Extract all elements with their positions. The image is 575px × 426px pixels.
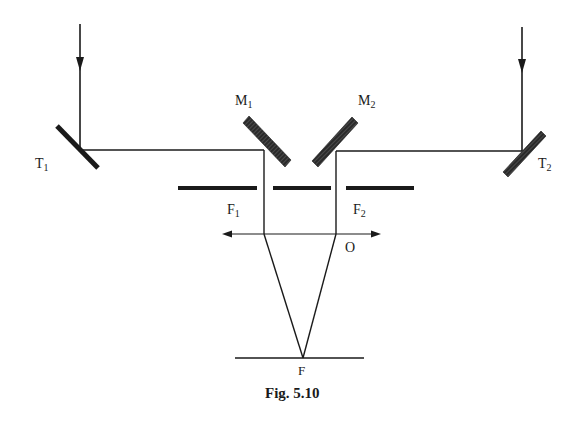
label-f2: F2 <box>353 203 366 219</box>
interferometer-diagram <box>0 0 575 426</box>
ray-left-to-focus <box>264 234 303 358</box>
label-t2: T2 <box>538 157 552 173</box>
mirror-m1 <box>243 116 291 167</box>
arrow-down-icon <box>76 57 84 71</box>
arrow-down-icon <box>518 59 526 73</box>
mirror-t1 <box>57 126 98 168</box>
incoming-beam-left <box>76 24 84 150</box>
label-f1: F1 <box>227 203 240 219</box>
incoming-beam-right <box>518 27 526 151</box>
arrow-left-icon <box>222 231 232 238</box>
ray-right-to-focus <box>303 234 336 358</box>
arrow-right-icon <box>371 231 381 238</box>
figure-caption: Fig. 5.10 <box>265 385 320 402</box>
label-t1: T1 <box>35 157 49 173</box>
label-m1: M1 <box>235 94 252 110</box>
lens-o <box>222 231 381 238</box>
mirror-m2 <box>312 117 358 167</box>
label-o: O <box>345 241 355 255</box>
label-m2: M2 <box>358 94 375 110</box>
label-focus: F <box>298 364 305 377</box>
